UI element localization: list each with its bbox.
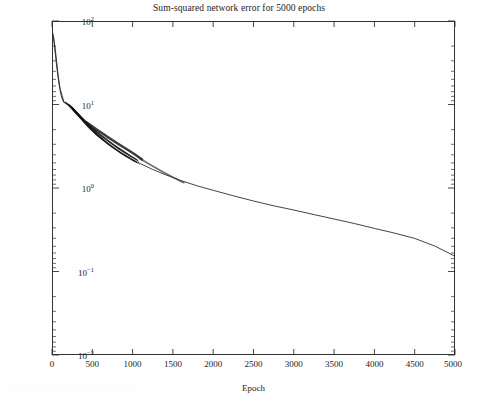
x-tick-3500: 3500 [325, 359, 343, 369]
y-tick-0p1: 10−1 [78, 266, 94, 278]
x-tick-5000: 5000 [444, 359, 462, 369]
y-tick-labels: 102 101 100 10−1 10−2 [48, 21, 94, 355]
y-tick-100: 102 [82, 15, 94, 27]
y-tick-10: 101 [82, 99, 94, 111]
x-tick-1500: 1500 [164, 359, 182, 369]
oscillation-tail-fade [140, 159, 184, 183]
y-tick-1: 100 [82, 182, 94, 194]
plot-area: 102 101 100 10−1 10−2 0 500 1000 1500 20… [52, 21, 455, 355]
chart-title: Sum-squared network error for 5000 epoch… [0, 3, 478, 13]
oscillation-tail [86, 122, 142, 160]
x-axis-ticks [52, 21, 455, 355]
x-tick-500: 500 [86, 359, 100, 369]
y-axis-ticks [52, 21, 455, 355]
x-tick-2000: 2000 [204, 359, 222, 369]
x-tick-3000: 3000 [285, 359, 303, 369]
x-tick-4500: 4500 [406, 359, 424, 369]
x-tick-labels: 0 500 1000 1500 2000 2500 3000 3500 4000… [52, 355, 455, 375]
x-tick-2500: 2500 [245, 359, 263, 369]
x-tick-4000: 4000 [365, 359, 383, 369]
figure-canvas: Sum-squared network error for 5000 epoch… [0, 0, 478, 398]
scan-artifact [12, 386, 130, 393]
x-tick-0: 0 [50, 359, 55, 369]
x-tick-1000: 1000 [124, 359, 142, 369]
plot-canvas [52, 21, 455, 355]
y-axis-minor-ticks [52, 46, 455, 351]
